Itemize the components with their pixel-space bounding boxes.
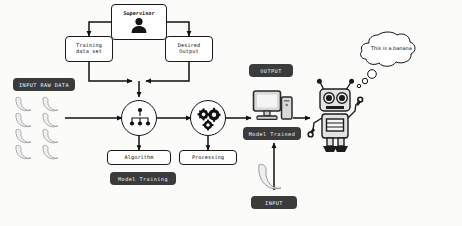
thought-bubble-text: This is a banana (371, 45, 411, 51)
gears-icon (191, 101, 227, 137)
tag-model-training[interactable]: Model Training (110, 172, 176, 185)
node-processing[interactable]: Processing (179, 150, 237, 165)
node-supervisor[interactable]: Supervisor (111, 4, 167, 40)
algorithm-label: Algorithm (124, 155, 153, 161)
desktop-computer-icon[interactable] (252, 89, 294, 127)
desired-output-label: Desired Output (178, 43, 201, 55)
node-algorithm[interactable]: Algorithm (107, 150, 171, 165)
node-processing-circle[interactable] (190, 100, 226, 136)
input-raw-data-label: INPUT RAW DATA (19, 82, 69, 88)
model-training-label: Model Training (118, 176, 168, 182)
tag-input[interactable]: INPUT (251, 196, 297, 209)
diagram-canvas: Supervisor Training data set Desired Out… (0, 0, 462, 226)
banana-icon (16, 113, 31, 126)
supervisor-label: Supervisor (123, 11, 154, 17)
input-banana-icon (259, 164, 281, 188)
banana-icon (16, 145, 31, 158)
training-data-set-label: Training data set (76, 43, 102, 55)
banana-icon (43, 113, 58, 126)
tag-input-raw-data[interactable]: INPUT RAW DATA (13, 78, 75, 91)
person-icon (129, 17, 149, 33)
banana-icon (16, 97, 31, 110)
node-algorithm-circle[interactable] (121, 100, 157, 136)
tag-model-trained[interactable]: Model Trained (243, 127, 301, 140)
raw-data-banana-group (14, 96, 70, 164)
model-trained-label: Model Trained (249, 131, 295, 137)
node-training-data-set[interactable]: Training data set (65, 36, 113, 62)
banana-icon (43, 129, 58, 142)
robot-icon[interactable] (307, 78, 367, 156)
banana-icon (43, 97, 58, 110)
processing-label: Processing (192, 155, 224, 161)
tag-output[interactable]: OUTPUT (249, 64, 293, 77)
node-desired-output[interactable]: Desired Output (165, 36, 213, 62)
input-label: INPUT (265, 200, 283, 206)
banana-icon (43, 145, 58, 158)
banana-icon (16, 129, 31, 142)
hierarchy-tree-icon (122, 101, 158, 137)
output-label: OUTPUT (260, 68, 281, 74)
